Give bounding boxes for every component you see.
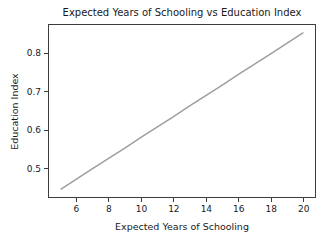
y-tick-label: 0.5	[15, 164, 41, 174]
chart-figure: Expected Years of Schooling vs Education…	[0, 0, 334, 246]
data-line	[61, 33, 303, 189]
plot-area	[48, 24, 316, 198]
x-tick-label: 12	[161, 204, 187, 214]
x-tick-mark	[206, 198, 207, 202]
x-tick-label: 14	[193, 204, 219, 214]
x-axis-label: Expected Years of Schooling	[48, 221, 316, 232]
y-tick-label: 0.7	[15, 87, 41, 97]
x-tick-label: 18	[258, 204, 284, 214]
y-tick-mark	[44, 53, 48, 54]
x-tick-mark	[141, 198, 142, 202]
chart-title: Expected Years of Schooling vs Education…	[48, 7, 316, 19]
x-tick-mark	[173, 198, 174, 202]
x-tick-label: 8	[96, 204, 122, 214]
x-tick-mark	[238, 198, 239, 202]
y-tick-mark	[44, 91, 48, 92]
x-tick-label: 16	[226, 204, 252, 214]
y-tick-label: 0.6	[15, 125, 41, 135]
x-tick-label: 10	[128, 204, 154, 214]
x-tick-label: 6	[63, 204, 89, 214]
x-tick-mark	[76, 198, 77, 202]
x-tick-mark	[108, 198, 109, 202]
y-tick-mark	[44, 130, 48, 131]
x-tick-mark	[303, 198, 304, 202]
y-tick-mark	[44, 168, 48, 169]
x-tick-label: 20	[291, 204, 317, 214]
line-series-canvas	[49, 25, 315, 197]
x-tick-mark	[271, 198, 272, 202]
y-axis-label: Education Index	[9, 73, 20, 149]
y-tick-label: 0.8	[15, 48, 41, 58]
